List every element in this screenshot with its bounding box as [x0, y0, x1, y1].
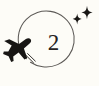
sparkle-icon [81, 6, 92, 19]
orbit-illustration: 2 [0, 0, 99, 86]
motion-trail [26, 54, 36, 63]
illustration-canvas [0, 0, 99, 86]
sparkle-icon [73, 14, 82, 25]
airplane-icon [3, 38, 31, 62]
